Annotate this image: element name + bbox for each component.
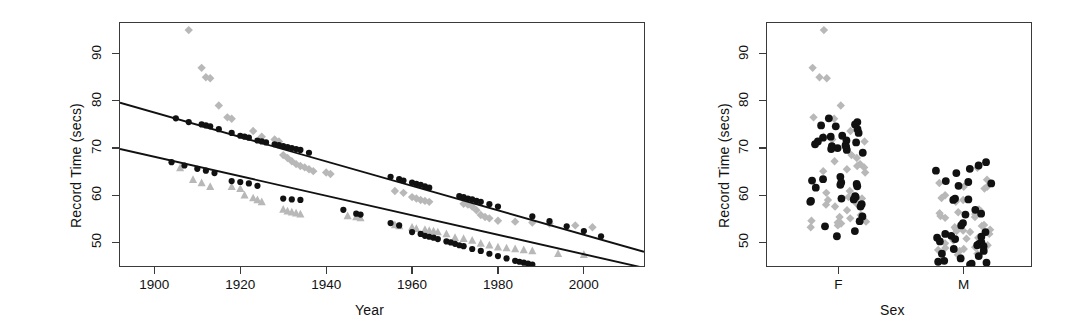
tick-mark: [240, 267, 241, 274]
data-point-triangle: [528, 247, 536, 255]
tick-mark: [963, 267, 964, 274]
data-point-circle: [478, 248, 484, 254]
data-point-circle: [263, 139, 269, 145]
data-point-triangle: [554, 249, 562, 257]
data-point-triangle: [198, 179, 206, 187]
data-point-diamond: [820, 26, 828, 34]
data-point-triangle: [494, 243, 502, 251]
data-point-circle: [949, 196, 957, 204]
data-point-diamond: [837, 101, 845, 109]
data-point-diamond: [823, 74, 831, 82]
data-point-circle: [817, 121, 825, 129]
left-y-tick-label: 60: [89, 182, 104, 206]
right-x-axis-title: Sex: [880, 302, 905, 318]
data-point-diamond: [511, 217, 519, 225]
right-y-tick-label: 60: [736, 182, 751, 206]
tick-mark: [154, 267, 155, 274]
data-point-diamond: [808, 64, 816, 72]
data-point-circle: [387, 174, 393, 180]
tick-mark: [411, 267, 412, 274]
data-point-diamond: [399, 189, 407, 197]
data-point-circle: [211, 170, 217, 176]
left-data-layer: [120, 23, 644, 266]
tick-mark: [497, 267, 498, 274]
right-y-tick-label: 90: [736, 40, 751, 64]
data-point-circle: [825, 114, 833, 122]
data-point-diamond: [846, 214, 854, 222]
tick-mark: [326, 267, 327, 274]
data-point-diamond: [822, 189, 830, 197]
tick-mark: [759, 53, 766, 54]
data-point-diamond: [962, 234, 970, 242]
data-point-diamond: [807, 217, 815, 225]
data-point-circle: [173, 115, 179, 121]
data-point-circle: [598, 233, 604, 239]
data-point-diamond: [861, 168, 869, 176]
data-point-circle: [203, 168, 209, 174]
data-point-circle: [168, 159, 174, 165]
data-point-circle: [832, 122, 840, 130]
data-point-circle: [478, 199, 484, 205]
tick-mark: [112, 195, 119, 196]
data-point-circle: [975, 252, 983, 260]
data-point-triangle: [460, 234, 468, 242]
tick-mark: [838, 267, 839, 274]
left-y-tick-label: 90: [89, 40, 104, 64]
tick-mark: [583, 267, 584, 274]
right-x-tick-label: F: [818, 277, 858, 292]
data-point-triangle: [511, 245, 519, 253]
data-point-diamond: [819, 167, 827, 175]
data-point-diamond: [249, 127, 257, 135]
data-point-triangle: [503, 244, 511, 252]
data-point-circle: [806, 198, 814, 206]
data-point-circle: [495, 253, 501, 259]
data-point-circle: [983, 259, 991, 266]
data-point-circle: [409, 229, 415, 235]
tick-mark: [759, 147, 766, 148]
data-point-diamond: [831, 202, 839, 210]
right-y-axis-title: Record Time (secs): [716, 103, 732, 228]
data-point-diamond: [954, 208, 962, 216]
data-point-circle: [186, 119, 192, 125]
data-point-circle: [289, 196, 295, 202]
right-plot-area: [767, 23, 1031, 266]
left-x-tick-label: 2000: [556, 277, 612, 292]
data-point-circle: [851, 227, 859, 235]
data-point-circle: [581, 228, 587, 234]
data-point-circle: [850, 196, 858, 204]
tick-mark: [759, 195, 766, 196]
data-point-circle: [827, 145, 835, 153]
data-point-circle: [964, 178, 972, 186]
right-x-tick-label: M: [944, 277, 984, 292]
data-point-circle: [957, 222, 965, 230]
data-point-diamond: [860, 137, 868, 145]
data-point-diamond: [809, 113, 817, 121]
data-point-circle: [955, 182, 963, 190]
data-point-circle: [987, 180, 995, 188]
data-point-triangle: [442, 230, 450, 238]
data-point-triangle: [477, 239, 485, 247]
data-point-circle: [957, 255, 965, 263]
data-point-circle: [254, 183, 260, 189]
left-y-tick-label: 70: [89, 135, 104, 159]
data-point-circle: [975, 162, 983, 170]
data-point-circle: [812, 184, 820, 192]
data-point-diamond: [494, 217, 502, 225]
data-point-circle: [546, 218, 552, 224]
tick-mark: [112, 242, 119, 243]
tick-mark: [759, 100, 766, 101]
data-point-diamond: [846, 127, 854, 135]
data-point-circle: [855, 129, 863, 137]
right-y-tick-label: 50: [736, 229, 751, 253]
data-point-circle: [964, 196, 972, 204]
data-point-triangle: [241, 191, 249, 199]
data-point-circle: [811, 140, 819, 148]
tick-mark: [759, 242, 766, 243]
data-point-circle: [246, 180, 252, 186]
tick-mark: [112, 53, 119, 54]
data-point-circle: [486, 251, 492, 257]
data-point-circle: [951, 235, 959, 243]
data-point-circle: [503, 255, 509, 261]
left-y-axis-title: Record Time (secs): [68, 103, 84, 228]
data-point-circle: [297, 147, 303, 153]
